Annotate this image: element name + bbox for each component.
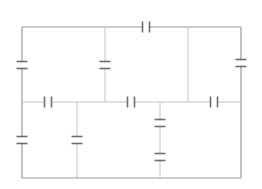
- capacitor-symbol-icon: [236, 60, 247, 67]
- capacitor-symbol-icon: [143, 22, 150, 33]
- capacitor-symbol-icon: [100, 62, 111, 69]
- capacitor-symbol-icon: [45, 97, 52, 108]
- capacitor-symbol-icon: [128, 97, 135, 108]
- capacitor-symbol-icon: [211, 97, 218, 108]
- capacitor-symbol-icon: [72, 137, 83, 144]
- capacitor-symbol-icon: [17, 137, 28, 144]
- capacitor-symbol-icon: [17, 62, 28, 69]
- capacitor-symbol-icon: [155, 154, 166, 161]
- capacitor-symbol-icon: [155, 120, 166, 127]
- circuit-diagram: [0, 0, 262, 189]
- capacitors: [17, 22, 247, 161]
